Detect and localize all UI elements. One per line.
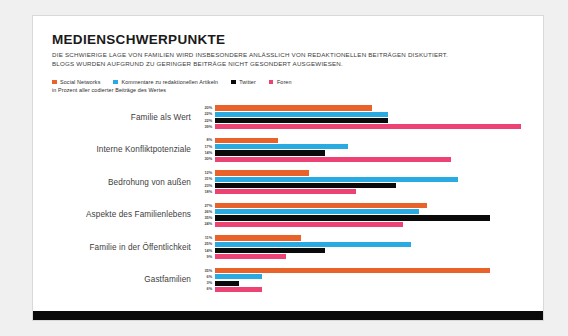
bar-fill[interactable] xyxy=(215,248,325,253)
bar-fill[interactable] xyxy=(215,281,239,286)
legend-swatch-icon xyxy=(231,80,236,85)
category-label: Familie als Wert xyxy=(52,113,200,122)
bar-track xyxy=(215,112,529,117)
bar-row[interactable]: 26% xyxy=(200,209,529,214)
bar-row[interactable]: 6% xyxy=(200,287,529,292)
bar-row[interactable]: 14% xyxy=(200,248,529,253)
bar-fill[interactable] xyxy=(215,287,262,292)
legend-label: Kommentare zu redaktionellen Artikeln xyxy=(121,79,218,85)
legend-item[interactable]: Kommentare zu redaktionellen Artikeln xyxy=(113,79,218,85)
bar-fill[interactable] xyxy=(215,170,309,175)
bar-row[interactable]: 35% xyxy=(200,268,529,273)
bar-fill[interactable] xyxy=(215,235,301,240)
bar-row[interactable]: 17% xyxy=(200,144,529,149)
bar-group: 27%26%35%24% xyxy=(200,203,529,227)
bar-row[interactable]: 11% xyxy=(200,235,529,240)
bar-fill[interactable] xyxy=(215,254,286,259)
bar-value-label: 22% xyxy=(200,119,215,123)
bar-value-label: 12% xyxy=(200,171,215,175)
bar-row[interactable]: 14% xyxy=(200,150,529,155)
bar-row[interactable]: 12% xyxy=(200,170,529,175)
bar-track xyxy=(215,235,529,240)
bar-group: 12%31%23%18% xyxy=(200,170,529,194)
bar-row[interactable]: 22% xyxy=(200,112,529,117)
chart-content: MEDIENSCHWERPUNKTE DIE SCHWIERIGE LAGE V… xyxy=(33,16,543,311)
bar-row[interactable]: 31% xyxy=(200,177,529,182)
category-label: Familie in der Öffentlichkeit xyxy=(52,243,200,252)
bar-track xyxy=(215,105,529,110)
bar-fill[interactable] xyxy=(215,222,403,227)
bar-value-label: 3% xyxy=(200,281,215,285)
bar-track xyxy=(215,254,529,259)
legend-swatch-icon xyxy=(113,80,118,85)
bar-track xyxy=(215,222,529,227)
bar-fill[interactable] xyxy=(215,203,427,208)
bar-fill[interactable] xyxy=(215,177,458,182)
bar-fill[interactable] xyxy=(215,183,396,188)
category-label: Interne Konfliktpotenziale xyxy=(52,145,200,154)
legend-label: Twitter xyxy=(239,79,256,85)
bar-row[interactable]: 6% xyxy=(200,274,529,279)
bar-track xyxy=(215,189,529,194)
bar-track xyxy=(215,203,529,208)
bar-track xyxy=(215,124,529,129)
card-bottom-bar xyxy=(33,311,543,320)
bar-group: 20%22%22%39% xyxy=(200,105,529,129)
legend-item[interactable]: Social Networks xyxy=(52,79,100,85)
bar-track xyxy=(215,170,529,175)
bar-row[interactable]: 39% xyxy=(200,124,529,129)
bar-fill[interactable] xyxy=(215,124,521,129)
bar-row[interactable]: 35% xyxy=(200,215,529,220)
chart-group: Familie als Wert20%22%22%39% xyxy=(52,105,529,129)
bar-fill[interactable] xyxy=(215,138,278,143)
bar-track xyxy=(215,209,529,214)
bar-fill[interactable] xyxy=(215,105,372,110)
bar-value-label: 20% xyxy=(200,106,215,110)
bar-fill[interactable] xyxy=(215,157,451,162)
bar-row[interactable]: 20% xyxy=(200,105,529,110)
bar-row[interactable]: 18% xyxy=(200,189,529,194)
bar-track xyxy=(215,157,529,162)
bar-row[interactable]: 9% xyxy=(200,254,529,259)
bar-fill[interactable] xyxy=(215,274,262,279)
bar-row[interactable]: 30% xyxy=(200,157,529,162)
chart-plot-area: Familie als Wert20%22%22%39%Interne Konf… xyxy=(52,105,529,292)
bar-value-label: 30% xyxy=(200,157,215,161)
bar-value-label: 17% xyxy=(200,145,215,149)
bar-value-label: 39% xyxy=(200,125,215,129)
bar-fill[interactable] xyxy=(215,268,490,273)
bar-fill[interactable] xyxy=(215,242,411,247)
bar-row[interactable]: 22% xyxy=(200,118,529,123)
bar-row[interactable]: 24% xyxy=(200,222,529,227)
chart-card: MEDIENSCHWERPUNKTE DIE SCHWIERIGE LAGE V… xyxy=(32,15,544,321)
bar-fill[interactable] xyxy=(215,215,490,220)
bar-track xyxy=(215,138,529,143)
bar-row[interactable]: 25% xyxy=(200,242,529,247)
bar-fill[interactable] xyxy=(215,189,356,194)
bar-value-label: 8% xyxy=(200,138,215,142)
bar-fill[interactable] xyxy=(215,150,325,155)
bar-fill[interactable] xyxy=(215,112,388,117)
bar-value-label: 9% xyxy=(200,255,215,259)
legend-swatch-icon xyxy=(269,80,274,85)
bar-track xyxy=(215,150,529,155)
bar-row[interactable]: 23% xyxy=(200,183,529,188)
bar-value-label: 11% xyxy=(200,236,215,240)
bar-row[interactable]: 8% xyxy=(200,138,529,143)
legend-item[interactable]: Foren xyxy=(269,79,292,85)
bar-fill[interactable] xyxy=(215,209,419,214)
legend-item[interactable]: Twitter xyxy=(231,79,256,85)
bar-track xyxy=(215,281,529,286)
bar-row[interactable]: 3% xyxy=(200,281,529,286)
bar-fill[interactable] xyxy=(215,118,388,123)
bar-value-label: 26% xyxy=(200,210,215,214)
bar-track xyxy=(215,144,529,149)
chart-group: Interne Konfliktpotenziale8%17%14%30% xyxy=(52,138,529,162)
legend-swatch-icon xyxy=(52,80,57,85)
chart-legend: Social NetworksKommentare zu redaktionel… xyxy=(52,79,529,85)
bar-row[interactable]: 27% xyxy=(200,203,529,208)
chart-group: Familie in der Öffentlichkeit11%25%14%9% xyxy=(52,235,529,259)
bar-value-label: 14% xyxy=(200,249,215,253)
bar-value-label: 35% xyxy=(200,269,215,273)
bar-fill[interactable] xyxy=(215,144,348,149)
